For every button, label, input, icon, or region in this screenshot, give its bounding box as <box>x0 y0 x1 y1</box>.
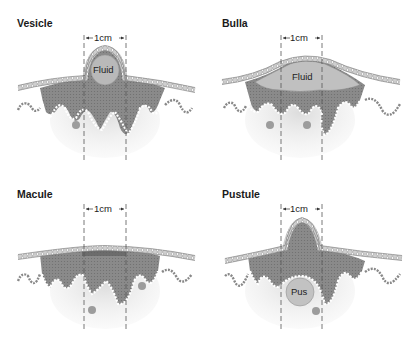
pus-label: Pus <box>291 286 307 297</box>
panel-bulla: Bulla 1cm Fluid <box>210 0 419 176</box>
vesicle-illustration <box>0 0 209 176</box>
fluid-label: Fluid <box>292 71 313 82</box>
scale-label: 1cm <box>94 32 112 43</box>
pustule-illustration <box>210 176 419 352</box>
panel-macule: Macule 1cm <box>0 176 209 352</box>
bulla-illustration <box>210 0 419 176</box>
scale-label: 1cm <box>290 32 308 43</box>
scale-label: 1cm <box>290 203 308 214</box>
panel-pustule: Pustule 1cm Pus <box>210 176 419 352</box>
panel-vesicle: Vesicle 1cm Fluid <box>0 0 209 176</box>
scale-label: 1cm <box>94 203 112 214</box>
fluid-label: Fluid <box>93 64 114 75</box>
